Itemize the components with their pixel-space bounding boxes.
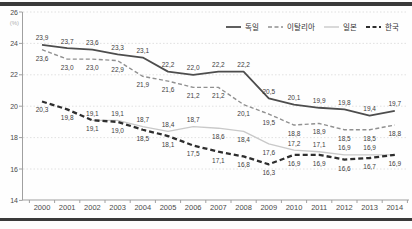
chart-legend: 독일이탈리아일본한국 — [226, 21, 399, 32]
data-point-label: 19,4 — [363, 105, 376, 112]
data-point-label: 17,5 — [187, 150, 200, 157]
data-point-label: 19,9 — [313, 97, 326, 104]
data-point-label: 20,1 — [237, 110, 250, 117]
data-point-label: 18,7 — [187, 116, 200, 123]
data-point-label: 23,6 — [86, 39, 99, 46]
x-tick-label: 2005 — [160, 203, 177, 212]
data-point-label: 20,1 — [288, 94, 301, 101]
data-point-label: 18,9 — [313, 128, 326, 135]
data-point-label: 18,5 — [363, 135, 376, 142]
data-point-label: 23,0 — [86, 64, 99, 71]
x-tick-label: 2000 — [34, 203, 51, 212]
data-point-label: 21,2 — [187, 92, 200, 99]
x-tick-label: 2001 — [59, 203, 76, 212]
y-tick-label: 22 — [10, 71, 18, 78]
legend-item-2: 일본 — [324, 21, 357, 32]
legend-label: 한국 — [385, 21, 399, 32]
data-point-label: 19,0 — [111, 127, 124, 134]
data-point-label: 19,1 — [86, 125, 99, 132]
y-tick-label: 26 — [10, 9, 18, 16]
data-point-label: 19,1 — [86, 110, 99, 117]
data-point-label: 19,1 — [111, 110, 124, 117]
data-point-label: 18,5 — [338, 135, 351, 142]
data-point-label: 18,8 — [388, 130, 401, 137]
legend-label: 이탈리아 — [287, 21, 315, 32]
x-tick-label: 2010 — [286, 203, 303, 212]
series-2: 19,119,118,718,418,718,618,417,617,217,1… — [86, 110, 395, 156]
data-point-label: 16,9 — [388, 160, 401, 167]
data-point-label: 23,6 — [36, 55, 49, 62]
legend-marker — [226, 23, 241, 31]
statistics-figure: 26242220181614(%)20002001200220032004200… — [0, 0, 412, 229]
data-point-label: 22,9 — [111, 66, 124, 73]
y-tick-labels: 26242220181614(%) — [10, 9, 23, 204]
x-tick-label: 2006 — [185, 203, 202, 212]
data-point-label: 19,8 — [338, 99, 351, 106]
legend-marker — [324, 23, 339, 31]
legend-label: 일본 — [343, 21, 357, 32]
data-point-label: 22,2 — [237, 61, 250, 68]
data-point-label: 22,2 — [212, 61, 225, 68]
y-tick-label: 24 — [10, 40, 18, 47]
data-point-label: 17,1 — [212, 157, 225, 164]
data-point-label: 18,6 — [212, 133, 225, 140]
data-point-label: 18,8 — [288, 130, 301, 137]
x-tick-label: 2007 — [210, 203, 227, 212]
x-tick-label: 2008 — [235, 203, 252, 212]
data-point-label: 16,9 — [363, 144, 376, 151]
data-point-label: 18,4 — [237, 136, 250, 143]
y-tick-label: 20 — [10, 103, 18, 110]
data-point-label: 19,7 — [388, 100, 401, 107]
data-point-label: 23,7 — [61, 38, 74, 45]
legend-label: 독일 — [245, 21, 259, 32]
bottom-divider — [0, 218, 412, 221]
x-tick-label: 2011 — [311, 203, 327, 212]
legend-marker — [366, 23, 381, 31]
data-point-label: 22,0 — [187, 64, 200, 71]
data-point-label: 20,3 — [36, 106, 49, 113]
data-point-label: 23,0 — [61, 64, 74, 71]
data-point-label: 16,3 — [262, 169, 275, 176]
data-point-label: 21,9 — [136, 81, 149, 88]
data-point-label: 23,3 — [111, 44, 124, 51]
data-point-label: 16,9 — [313, 160, 326, 167]
legend-item-0: 독일 — [226, 21, 259, 32]
data-point-label: 16,7 — [363, 163, 376, 170]
data-point-label: 21,2 — [212, 92, 225, 99]
data-point-label: 23,1 — [136, 47, 149, 54]
data-point-label: 19,8 — [61, 114, 74, 121]
data-point-label: 16,9 — [288, 160, 301, 167]
x-tick-label: 2012 — [336, 203, 353, 212]
x-tick-label: 2002 — [84, 203, 101, 212]
line-chart: 26242220181614(%)20002001200220032004200… — [0, 0, 412, 229]
y-tick-label: 18 — [10, 134, 18, 141]
data-point-label: 16,8 — [237, 161, 250, 168]
legend-item-3: 한국 — [366, 21, 399, 32]
legend-marker — [268, 23, 283, 31]
data-point-label: 18,1 — [162, 141, 175, 148]
data-point-label: 16,9 — [338, 144, 351, 151]
data-point-label: 21,6 — [162, 86, 175, 93]
y-axis-unit-label: (%) — [10, 20, 19, 26]
data-point-label: 20,5 — [262, 88, 275, 95]
data-point-label: 17,2 — [288, 140, 301, 147]
data-point-label: 23,9 — [36, 34, 49, 41]
data-point-label: 16,6 — [338, 165, 351, 172]
x-tick-label: 2013 — [361, 203, 378, 212]
data-point-label: 17,1 — [313, 141, 326, 148]
x-tick-label: 2009 — [260, 203, 277, 212]
y-tick-label: 16 — [10, 166, 18, 173]
x-tick-label: 2014 — [386, 203, 403, 212]
legend-item-1: 이탈리아 — [268, 21, 315, 32]
data-point-label: 18,4 — [162, 121, 175, 128]
data-point-label: 18,7 — [136, 116, 149, 123]
data-point-label: 22,2 — [162, 61, 175, 68]
x-tick-labels: 2000200120022003200420052006200720082009… — [29, 200, 407, 212]
data-point-label: 17,6 — [262, 149, 275, 156]
x-tick-label: 2004 — [134, 203, 151, 212]
x-tick-label: 2003 — [109, 203, 126, 212]
data-point-label: 18,5 — [136, 135, 149, 142]
data-point-label: 19,5 — [262, 119, 275, 126]
y-tick-label: 14 — [10, 197, 18, 204]
